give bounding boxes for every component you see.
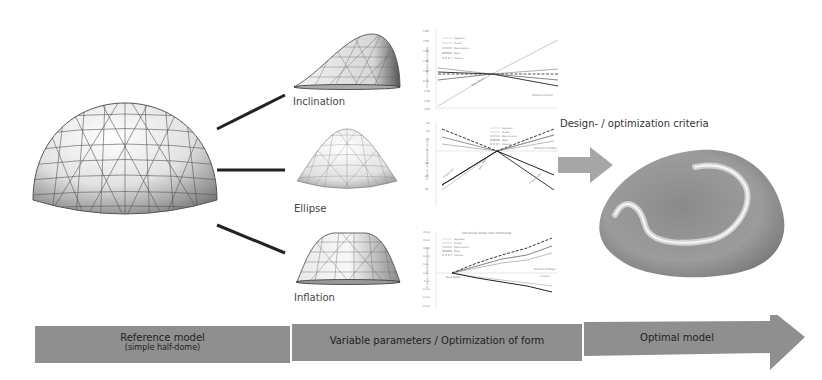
stage-optimal-model: Optimal model [584,332,770,343]
svg-text:30: 30 [426,122,430,125]
svg-text:Mass: Mass [454,250,461,253]
svg-text:20: 20 [426,130,430,133]
process-bar: Reference model (simple half-dome) Varia… [35,315,805,375]
optimal-model-image [595,135,795,285]
svg-text:Inflation: Inflation [540,275,550,278]
svg-text:Amount of pivot: Amount of pivot [532,94,553,97]
svg-text:Base Model: Base Model [446,276,461,279]
inflation-label: Inflation [294,292,335,303]
svg-text:Mass: Mass [502,139,509,142]
svg-text:Segment: Segment [454,37,465,40]
svg-text:Amount of Bulge: Amount of Bulge [534,268,556,271]
svg-text:Score (% delta Best-base model: Score (% delta Best-base model) [426,47,429,88]
svg-text:Ellipse left: Ellipse left [443,168,455,179]
svg-text:Stress: Stress [502,131,510,134]
stage-reference-subtitle: (simple half-dome) [35,343,290,352]
ellipse-chart: 3020100 -10-20-30 Score (% delta Best-ba… [422,120,560,208]
svg-text:-15.00: -15.00 [422,296,430,299]
svg-text:Deformation: Deformation [454,47,469,50]
svg-text:-30: -30 [424,188,429,191]
svg-text:Deformation: Deformation [454,246,469,249]
svg-text:-3.00: -3.00 [423,108,430,110]
svg-text:4.00: 4.00 [423,40,429,43]
criteria-label: Design- / optimization criteria [560,118,709,129]
svg-text:-2.00: -2.00 [423,100,430,103]
svg-text:20.00: 20.00 [423,239,430,242]
svg-text:5.00: 5.00 [423,30,429,33]
svg-text:Mass: Mass [454,52,461,55]
svg-text:Score (% delta Best-base model: Score (% delta Best-base model) [426,247,429,288]
inflation-chart: Sensitivity Study into Volumising 25.002… [422,228,560,310]
ellipse-label: Ellipse [294,203,326,214]
svg-text:-20.00: -20.00 [422,305,430,308]
svg-text:Base Model: Base Model [471,77,485,87]
svg-text:Deformation: Deformation [502,135,517,138]
connector-lines [215,90,290,270]
svg-text:Volume: Volume [454,57,463,60]
svg-text:Amount of Ellipse: Amount of Ellipse [534,147,557,150]
inclination-label: Inclination [293,96,345,107]
svg-text:Score (% delta Best-base model: Score (% delta Best-base model) [426,139,429,180]
inflation-dome-image [294,230,402,288]
stage-reference-model: Reference model (simple half-dome) [35,332,290,352]
svg-text:Segment: Segment [502,127,513,130]
inclination-dome-image [292,32,402,92]
svg-text:Segment: Segment [454,238,465,241]
svg-text:Ellipse right: Ellipse right [529,173,542,185]
stage-variable-parameters: Variable parameters / Optimization of fo… [292,335,582,346]
svg-text:Stress: Stress [454,242,462,245]
svg-text:25.00: 25.00 [423,231,430,234]
stage-reference-title: Reference model [35,332,290,343]
reference-dome-image [30,100,220,230]
ellipse-dome-image [294,126,400,192]
svg-text:-1.00: -1.00 [423,90,430,93]
svg-text:Stress: Stress [454,42,462,45]
svg-text:Volume: Volume [454,254,463,257]
svg-text:Sensitivity Study into Volumis: Sensitivity Study into Volumising [462,231,511,235]
inclination-chart: 5.004.003.00 2.001.000.00 -1.00-2.00-3.0… [422,28,560,110]
